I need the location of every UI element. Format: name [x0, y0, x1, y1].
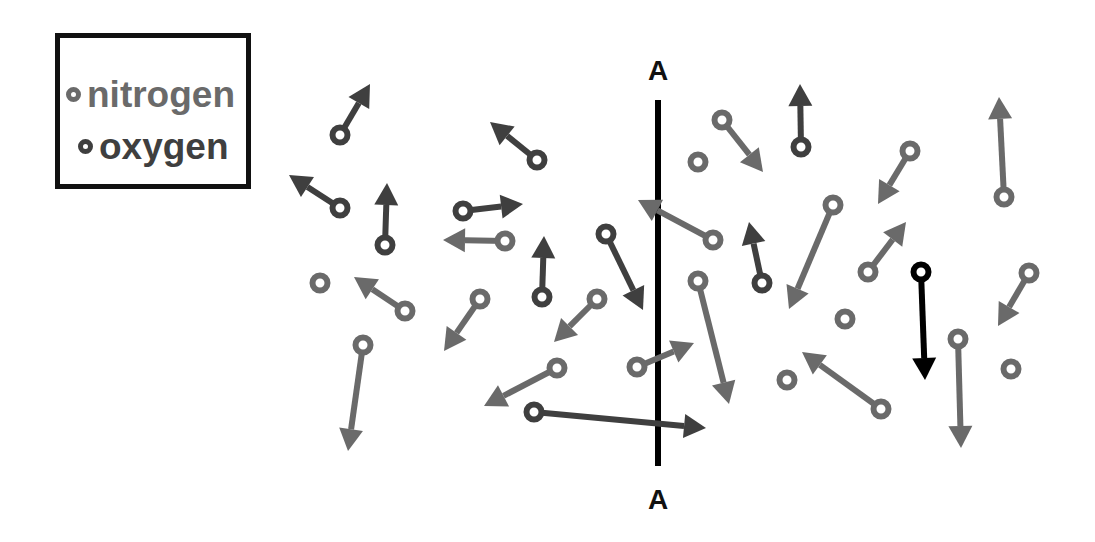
arrowhead-icon: [912, 358, 936, 380]
arrowhead-icon: [712, 380, 735, 404]
molecule-circle-icon: [333, 128, 348, 143]
nitrogen-molecule: [838, 312, 853, 327]
nitrogen-molecule: [802, 352, 889, 417]
molecule-circle-icon: [527, 405, 542, 420]
arrowhead-icon: [683, 414, 706, 438]
nitrogen-molecule: [313, 276, 328, 291]
nitrogen-molecule: [691, 274, 736, 405]
molecule-circle-icon: [498, 234, 513, 249]
molecule-circle-icon: [356, 338, 371, 353]
molecule-circle-icon: [691, 155, 706, 170]
nitrogen-molecule: [861, 222, 907, 280]
arrowhead-icon: [339, 428, 363, 451]
molecule-circle-icon: [903, 144, 918, 159]
nitrogen-molecule: [878, 144, 918, 205]
arrowhead-icon: [788, 84, 812, 106]
nitrogen-molecule: [780, 373, 795, 388]
molecule-circle-icon: [861, 265, 876, 280]
nitrogen-molecule: [998, 266, 1037, 327]
velocity-shaft: [698, 281, 724, 383]
molecule-circle-icon: [914, 265, 929, 280]
molecule-circle-icon: [1022, 266, 1037, 281]
molecule-circle-icon: [691, 274, 706, 289]
molecule-circle-icon: [780, 373, 795, 388]
molecule-circle-icon: [838, 312, 853, 327]
velocity-shaft: [1000, 119, 1004, 197]
nitrogen-molecule: [354, 277, 413, 319]
highlight-molecule: [912, 265, 936, 381]
molecule-diagram: [0, 0, 1095, 542]
molecule-circle-icon: [599, 227, 614, 242]
arrowhead-icon: [443, 228, 465, 252]
nitrogen-molecule: [443, 228, 513, 252]
nitrogen-molecule: [1004, 362, 1019, 377]
nitrogen-molecule: [630, 340, 695, 374]
nitrogen-molecule: [638, 200, 721, 248]
nitrogen-molecule: [787, 198, 841, 310]
molecule-circle-icon: [535, 290, 550, 305]
molecule-circle-icon: [706, 233, 721, 248]
molecule-circle-icon: [313, 276, 328, 291]
molecule-circle-icon: [473, 292, 488, 307]
molecule-circle-icon: [333, 201, 348, 216]
molecule-circle-icon: [530, 153, 545, 168]
molecule-circle-icon: [715, 113, 730, 128]
molecule-circle-icon: [550, 361, 565, 376]
velocity-shaft: [351, 345, 363, 429]
nitrogen-molecule: [339, 338, 370, 452]
oxygen-molecule: [742, 222, 770, 291]
arrowhead-icon: [374, 183, 398, 205]
arrowhead-icon: [531, 236, 555, 258]
nitrogen-molecule: [444, 292, 488, 352]
molecule-circle-icon: [755, 276, 770, 291]
oxygen-molecule: [456, 195, 524, 219]
arrowhead-icon: [948, 426, 972, 448]
oxygen-molecule: [490, 122, 545, 168]
velocity-shaft: [534, 412, 684, 426]
molecule-circle-icon: [590, 292, 605, 307]
molecule-circle-icon: [630, 360, 645, 375]
molecule-circle-icon: [456, 204, 471, 219]
oxygen-molecule: [788, 84, 812, 155]
velocity-shaft: [921, 272, 924, 358]
molecule-circle-icon: [398, 304, 413, 319]
molecule-circle-icon: [951, 332, 966, 347]
nitrogen-molecule: [554, 292, 605, 343]
oxygen-molecule: [374, 183, 398, 253]
molecule-circle-icon: [794, 140, 809, 155]
nitrogen-molecule: [715, 113, 764, 173]
molecule-circle-icon: [997, 190, 1012, 205]
oxygen-molecule: [289, 175, 348, 216]
oxygen-molecule: [333, 84, 371, 143]
arrowhead-icon: [742, 222, 765, 246]
nitrogen-molecule: [691, 155, 706, 170]
molecule-circle-icon: [826, 198, 841, 213]
arrowhead-icon: [500, 195, 523, 219]
oxygen-molecule: [531, 236, 555, 305]
oxygen-molecule: [527, 405, 707, 438]
velocity-shaft: [820, 365, 881, 409]
molecule-circle-icon: [1004, 362, 1019, 377]
nitrogen-molecule: [484, 361, 565, 407]
molecule-circle-icon: [378, 238, 393, 253]
arrowhead-icon: [802, 352, 827, 375]
nitrogen-molecule: [948, 332, 972, 449]
velocity-shaft: [798, 205, 833, 289]
nitrogen-molecule: [988, 97, 1012, 205]
molecule-circle-icon: [874, 402, 889, 417]
arrowhead-icon: [988, 97, 1012, 120]
velocity-shaft: [958, 339, 960, 426]
